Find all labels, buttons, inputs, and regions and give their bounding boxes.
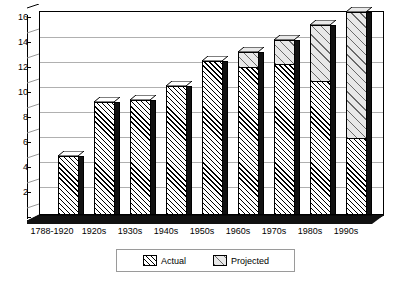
chart-floor-slab xyxy=(27,203,384,225)
bar-segment-actual[interactable] xyxy=(274,64,295,215)
bar-segment-actual[interactable] xyxy=(130,100,151,215)
bar-top-face xyxy=(166,81,187,86)
bar-1990s[interactable] xyxy=(346,12,367,215)
bar-top-face xyxy=(130,95,151,100)
legend-item-actual[interactable]: Actual xyxy=(143,255,186,266)
bar-segment-actual[interactable] xyxy=(166,86,187,215)
bar-1970s[interactable] xyxy=(274,40,295,215)
bar-top-face xyxy=(58,151,79,156)
bar-top-face xyxy=(274,35,295,40)
bar-1980s[interactable] xyxy=(310,25,331,215)
y-axis-tick-label: 6 xyxy=(0,138,28,147)
y-axis-tick-label: 4 xyxy=(0,163,28,172)
bar-top-face xyxy=(346,7,367,12)
bar-1930s[interactable] xyxy=(130,100,151,215)
bar-segment-projected[interactable] xyxy=(274,40,295,65)
y-axis-tick-label: 10 xyxy=(0,88,28,97)
bar-top-face xyxy=(310,20,331,25)
stacked-column-chart: 2 4 6 8 10 12 14 16 xyxy=(0,0,406,284)
bar-top-face xyxy=(202,56,223,61)
bar-1960s[interactable] xyxy=(238,52,259,215)
x-axis-label-1990s: 1990s xyxy=(310,226,382,236)
bar-top-face xyxy=(94,97,115,102)
bar-segment-actual[interactable] xyxy=(310,81,331,215)
y-axis-tick-label: 16 xyxy=(0,13,28,22)
y-axis-tick-label: 14 xyxy=(0,38,28,47)
legend-swatch-actual-icon xyxy=(143,255,157,266)
bar-segment-actual[interactable] xyxy=(238,67,259,215)
legend-label-actual: Actual xyxy=(161,256,186,266)
y-axis-tick-label: 2 xyxy=(0,188,28,197)
legend-swatch-projected-icon xyxy=(213,255,227,266)
legend-label-projected: Projected xyxy=(231,256,269,266)
bar-1940s[interactable] xyxy=(166,86,187,215)
y-axis-tick-label: 8 xyxy=(0,113,28,122)
bar-top-face xyxy=(238,47,259,52)
bar-1950s[interactable] xyxy=(202,61,223,215)
bar-segment-projected[interactable] xyxy=(346,12,367,139)
legend-item-projected[interactable]: Projected xyxy=(213,255,269,266)
bar-segment-projected[interactable] xyxy=(310,25,331,82)
y-axis-tick-label: 12 xyxy=(0,63,28,72)
bar-segment-actual[interactable] xyxy=(202,61,223,215)
bar-segment-actual[interactable] xyxy=(94,102,115,215)
chart-legend: Actual Projected xyxy=(116,249,295,272)
bar-1920s[interactable] xyxy=(94,102,115,215)
bars-layer xyxy=(39,11,384,215)
bar-segment-projected[interactable] xyxy=(238,52,259,68)
